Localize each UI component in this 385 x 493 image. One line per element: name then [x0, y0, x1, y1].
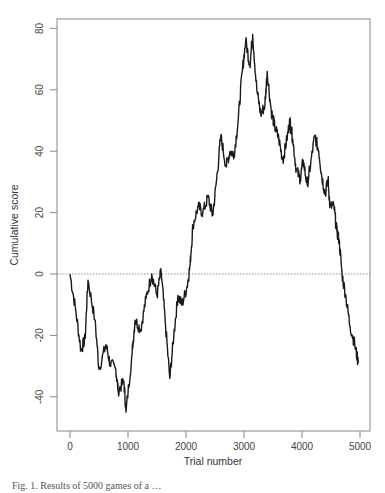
figure-caption: Fig. 1. Results of 5000 games of a … [12, 480, 382, 491]
x-tick-label: 0 [67, 441, 73, 452]
y-axis-title: Cumulative score [8, 184, 20, 265]
x-tick-label: 3000 [233, 441, 256, 452]
y-tick-label: 20 [34, 207, 45, 219]
x-tick-label: 4000 [291, 441, 314, 452]
y-tick-label: -20 [34, 328, 45, 343]
x-axis-title: Trial number [184, 455, 243, 467]
y-axis: -40-20020406080 [34, 22, 57, 404]
y-tick-label: 80 [34, 22, 45, 34]
plot-frame [57, 19, 370, 431]
cumulative-score-chart: -40-20020406080 010002000300040005000 Tr… [0, 0, 385, 493]
x-axis: 010002000300040005000 [67, 431, 371, 452]
y-tick-label: 0 [34, 271, 45, 277]
y-tick-label: -40 [34, 389, 45, 404]
x-tick-label: 1000 [117, 441, 140, 452]
y-tick-label: 40 [34, 145, 45, 157]
x-tick-label: 5000 [349, 441, 372, 452]
cumulative-score-line [70, 35, 358, 413]
x-tick-label: 2000 [175, 441, 198, 452]
y-tick-label: 60 [34, 84, 45, 96]
